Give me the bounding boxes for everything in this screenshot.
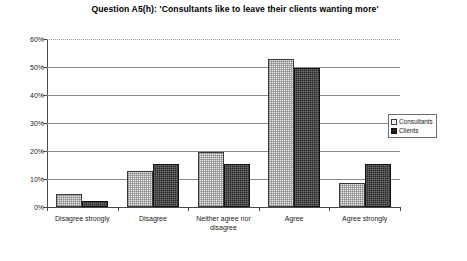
gridline [47, 123, 400, 124]
x-axis-tick-mark [400, 207, 401, 211]
y-axis-tick-label: 60% [14, 36, 44, 43]
bar-consultants [127, 171, 153, 207]
x-axis-tick-mark [329, 207, 330, 211]
chart-title: Question A5(h): 'Consultants like to lea… [55, 3, 415, 15]
bar-clients [153, 164, 179, 207]
plot-area [47, 39, 400, 207]
x-axis-tick-mark [259, 207, 260, 211]
legend-label-consultants: Consultants [399, 118, 433, 125]
legend-item-clients: Clients [391, 126, 433, 135]
x-axis-tick-mark [188, 207, 189, 211]
bar-clients [224, 164, 250, 207]
x-axis-category-label: Agree [259, 214, 330, 223]
bar-consultants [56, 194, 82, 207]
x-axis-line [47, 207, 401, 208]
x-axis-tick-mark [47, 207, 48, 211]
bar-clients [82, 201, 108, 207]
y-axis-tick-label: 40% [14, 92, 44, 99]
bar-consultants [339, 183, 365, 207]
gridline [47, 39, 400, 40]
x-axis-category-label: Neither agree nor disagree [188, 214, 259, 232]
chart-legend: Consultants Clients [388, 114, 437, 138]
y-axis-tick-label: 50% [14, 64, 44, 71]
bar-chart: Question A5(h): 'Consultants like to lea… [0, 0, 467, 261]
y-axis-tick-label: 30% [14, 120, 44, 127]
y-axis-tick-label: 0% [14, 204, 44, 211]
bar-clients [365, 164, 391, 207]
bar-consultants [198, 152, 224, 207]
x-axis-tick-mark [118, 207, 119, 211]
bar-clients [294, 68, 320, 207]
gridline [47, 67, 400, 68]
legend-swatch-consultants-icon [391, 119, 397, 125]
legend-label-clients: Clients [399, 127, 419, 134]
gridline [47, 151, 400, 152]
bar-consultants [268, 59, 294, 207]
y-axis-tick-label: 10% [14, 176, 44, 183]
legend-swatch-clients-icon [391, 128, 397, 134]
x-axis-category-label: Disagree [118, 214, 189, 223]
x-axis-category-label: Disagree strongly [47, 214, 118, 223]
y-axis-tick-label: 20% [14, 148, 44, 155]
x-axis-category-label: Agree strongly [329, 214, 400, 223]
legend-item-consultants: Consultants [391, 117, 433, 126]
gridline [47, 95, 400, 96]
